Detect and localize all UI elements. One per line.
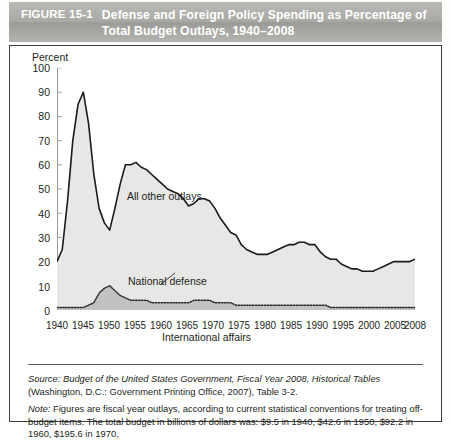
y-tick-80: 80 [24,110,50,122]
x-tick-2008: 2008 [397,320,433,331]
figure-title: Defense and Foreign Policy Spending as P… [93,5,442,39]
y-tick-100: 100 [24,62,50,74]
annotation-international-affairs: International affairs [162,331,251,343]
y-tick-20: 20 [24,256,50,268]
chart-area: Percent 100 90 80 70 60 50 40 30 20 10 0 [10,46,441,356]
note-label: Note: [28,403,50,414]
y-tick-60: 60 [24,159,50,171]
source-note: Source: Budget of the United States Gove… [28,373,426,398]
source-publisher: (Washington, D.C.: Government Printing O… [28,386,298,397]
figure-header-banner: FIGURE 15-1 Defense and Foreign Policy S… [9,2,442,42]
y-tick-0: 0 [24,305,50,317]
annotation-all-other-outlays: All other outlays [127,190,202,202]
y-tick-70: 70 [24,135,50,147]
footnote-divider [28,364,423,365]
y-tick-50: 50 [24,183,50,195]
y-tick-10: 10 [24,281,50,293]
source-title: Budget of the United States Government, … [63,373,380,384]
figure-note: Note: Figures are fiscal year outlays, a… [28,403,426,441]
note-text-clipped: items. The total budget in billions of d… [28,416,413,440]
annotation-national-defense: National defense [128,275,207,287]
area-national-defense [57,92,415,310]
y-tick-30: 30 [24,232,50,244]
chart-svg [57,68,415,310]
figure-number: FIGURE 15-1 [9,5,93,20]
figure-body: Percent 100 90 80 70 60 50 40 30 20 10 0 [9,45,442,422]
y-tick-90: 90 [24,86,50,98]
plot-canvas [57,68,415,310]
y-tick-40: 40 [24,208,50,220]
source-label: Source: [28,373,60,384]
